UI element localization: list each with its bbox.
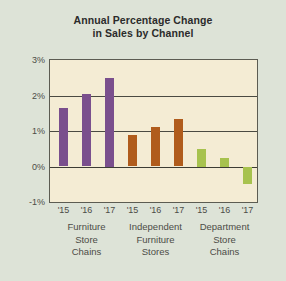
- y-tick-label: 3%: [5, 55, 49, 65]
- x-tick-label: '16: [214, 205, 236, 215]
- group-label-line: Store: [188, 234, 262, 247]
- y-tick-label: 2%: [5, 91, 49, 101]
- x-tick-label: '17: [99, 205, 121, 215]
- x-tick-label: '15: [191, 205, 213, 215]
- group-label-line: Independent: [119, 221, 193, 234]
- bar-furniture-store-chains-17: [105, 78, 114, 167]
- chart-title: Annual Percentage Change in Sales by Cha…: [0, 14, 286, 40]
- y-tick-label: 1%: [5, 126, 49, 136]
- chart-title-line-1: Annual Percentage Change: [74, 14, 213, 26]
- group-label-independent-furniture-stores: IndependentFurnitureStores: [119, 221, 193, 259]
- x-tick-label: '17: [237, 205, 259, 215]
- bar-independent-furniture-stores-16: [151, 127, 160, 166]
- group-label-line: Furniture: [119, 234, 193, 247]
- bar-department-store-chains-17: [243, 167, 252, 185]
- y-tick-label: -1%: [5, 197, 49, 207]
- chart-title-line-2: in Sales by Channel: [0, 27, 286, 40]
- gridline-0: [50, 167, 257, 168]
- x-tick-label: '17: [168, 205, 190, 215]
- group-label-line: Furniture: [50, 221, 124, 234]
- group-labels: FurnitureStoreChainsIndependentFurniture…: [49, 221, 258, 271]
- bar-department-store-chains-15: [197, 149, 206, 167]
- x-tick-label: '16: [145, 205, 167, 215]
- group-label-line: Chains: [188, 246, 262, 259]
- group-label-department-store-chains: DepartmentStoreChains: [188, 221, 262, 259]
- group-label-line: Department: [188, 221, 262, 234]
- plot-area: [49, 59, 258, 203]
- y-tick-label: 0%: [5, 162, 49, 172]
- x-tick-label: '15: [122, 205, 144, 215]
- bar-furniture-store-chains-16: [82, 94, 91, 167]
- y-axis: 3%2%1%0%-1%: [0, 59, 49, 203]
- x-tick-label: '16: [76, 205, 98, 215]
- group-label-line: Chains: [50, 246, 124, 259]
- x-axis: '15'16'17'15'16'17'15'16'17: [49, 205, 258, 219]
- group-label-line: Store: [50, 234, 124, 247]
- group-label-line: Stores: [119, 246, 193, 259]
- group-label-furniture-store-chains: FurnitureStoreChains: [50, 221, 124, 259]
- bar-independent-furniture-stores-15: [128, 135, 137, 167]
- x-tick-label: '15: [53, 205, 75, 215]
- bar-furniture-store-chains-15: [59, 108, 68, 167]
- bar-independent-furniture-stores-17: [174, 119, 183, 167]
- chart-figure: Annual Percentage Change in Sales by Cha…: [0, 0, 286, 281]
- bar-department-store-chains-16: [220, 158, 229, 167]
